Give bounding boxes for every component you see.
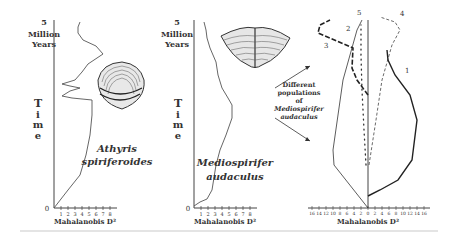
svg-text:6: 6 xyxy=(346,211,349,216)
time-label-e: e xyxy=(175,130,181,141)
line-label-1: 1 xyxy=(405,67,409,75)
svg-text:2: 2 xyxy=(360,211,363,216)
species-name-athyris-1: Athyris xyxy=(96,143,137,154)
y-top-label-years: Years xyxy=(31,39,57,49)
svg-text:0: 0 xyxy=(367,211,370,216)
population-line-4 xyxy=(369,17,400,165)
svg-text:16: 16 xyxy=(421,211,427,216)
population-line-2 xyxy=(361,25,366,165)
svg-text:14: 14 xyxy=(414,211,420,216)
x-axis-label: Mahalanobis D² xyxy=(337,217,399,226)
mediospirifer-shell-icon xyxy=(221,27,290,68)
panel-populations: 16 14 12 10 8 6 4 2 0 2 4 6 8 10 12 14 1… xyxy=(308,9,430,226)
svg-text:12: 12 xyxy=(407,211,413,216)
y-top-label-million: Million xyxy=(161,29,193,39)
time-label-m: m xyxy=(33,119,44,130)
annotation-line-5: audaculus xyxy=(280,113,318,121)
x-axis-label: Mahalanobis D² xyxy=(194,217,256,226)
svg-text:2: 2 xyxy=(374,211,377,216)
species-name-athyris-2: spiriferoides xyxy=(82,156,153,167)
annotation-line-2: populations xyxy=(277,89,320,97)
arrow-down-line xyxy=(275,118,310,141)
species-name-mediospirifer-2: audaculus xyxy=(206,171,264,182)
svg-text:10: 10 xyxy=(330,211,336,216)
line-label-4: 4 xyxy=(400,10,405,18)
athyris-curve xyxy=(54,22,103,208)
athyris-shell-icon xyxy=(98,62,144,109)
y-top-label-million: Million xyxy=(28,29,60,39)
arrow-down-head-icon xyxy=(305,137,310,141)
line-label-5: 5 xyxy=(357,9,361,17)
annotation-line-3: of xyxy=(295,97,303,105)
svg-text:8: 8 xyxy=(395,211,398,216)
svg-text:6: 6 xyxy=(388,211,391,216)
panel-mediospirifer: 5 Million Years T i m e 0 1 2 3 4 5 6 7 … xyxy=(161,17,290,226)
annotation-line-1: Different xyxy=(283,81,316,89)
svg-text:16: 16 xyxy=(309,211,315,216)
svg-text:4: 4 xyxy=(353,211,356,216)
svg-text:8: 8 xyxy=(339,211,342,216)
arrow-up-head-icon xyxy=(305,66,310,70)
population-line-3 xyxy=(318,20,368,95)
svg-text:14: 14 xyxy=(316,211,322,216)
y-top-label-5: 5 xyxy=(174,17,180,27)
line-label-3: 3 xyxy=(324,42,328,50)
annotation-line-4: Mediospirifer xyxy=(273,105,324,113)
line-label-2: 2 xyxy=(346,25,350,33)
y-top-label-5: 5 xyxy=(41,17,47,27)
annotation-group: Different populations of Mediospirifer a… xyxy=(273,66,324,141)
x-axis-label: Mahalanobis D² xyxy=(54,217,116,226)
y-zero-label: 0 xyxy=(186,205,190,213)
line-labels: 1 2 3 4 5 xyxy=(324,9,409,75)
figure-canvas: 5 Million Years T i m e 0 1 2 3 4 5 6 7 … xyxy=(0,0,458,240)
y-top-label-years: Years xyxy=(164,39,190,49)
svg-text:10: 10 xyxy=(400,211,406,216)
time-label-e: e xyxy=(35,130,41,141)
x-tick-labels: 16 14 12 10 8 6 4 2 0 2 4 6 8 10 12 14 1… xyxy=(309,211,427,216)
svg-text:12: 12 xyxy=(323,211,329,216)
y-zero-label: 0 xyxy=(45,205,49,213)
panel-athyris: 5 Million Years T i m e 0 1 2 3 4 5 6 7 … xyxy=(28,17,153,226)
svg-text:4: 4 xyxy=(381,211,384,216)
species-name-mediospirifer-1: Mediospirifer xyxy=(196,157,274,168)
time-label-m: m xyxy=(173,119,184,130)
